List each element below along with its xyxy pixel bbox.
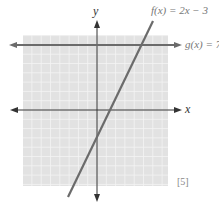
- f-label: f(x) = 2x − 3: [151, 4, 208, 16]
- x-axis-arrow-right-icon: [174, 107, 182, 113]
- g-line-arrow-left-icon: [9, 42, 17, 48]
- y-axis-arrow-down-icon: [94, 194, 100, 202]
- x-axis-arrow-left-icon: [10, 107, 18, 113]
- mark-label: [5]: [177, 176, 189, 187]
- g-line-arrow-right-icon: [174, 42, 182, 48]
- y-axis-arrow-up-icon: [94, 20, 100, 28]
- g-label: g(x) = 7: [185, 38, 219, 50]
- y-axis-label: y: [93, 4, 98, 19]
- x-axis-label: x: [185, 102, 190, 117]
